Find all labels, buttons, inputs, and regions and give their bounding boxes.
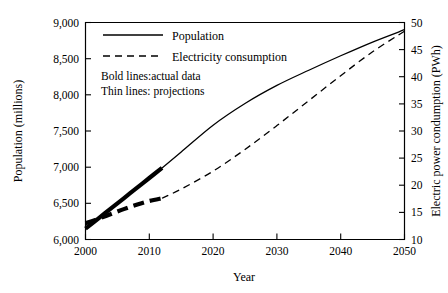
y2-tick-label: 40 <box>411 71 423 83</box>
left-axis-tick-labels: 9,000 8,500 8,000 7,500 7,000 6,500 6,00… <box>53 17 79 247</box>
y2-tick-label: 45 <box>411 44 423 56</box>
legend-label-electricity: Electricity consumption <box>172 50 287 64</box>
x-tick-label: 2050 <box>393 245 416 257</box>
chart-annotations: Bold lines:actual data Thin lines: proje… <box>101 70 205 98</box>
x-tick-label: 2030 <box>265 245 288 257</box>
series-population-actual <box>86 168 163 229</box>
chart-legend: Population Electricity consumption <box>103 29 287 64</box>
chart-figure: 9,000 8,500 8,000 7,500 7,000 6,500 6,00… <box>0 0 448 293</box>
x-axis-title: Year <box>233 270 255 284</box>
y2-tick-label: 35 <box>411 98 423 110</box>
chart-svg: 9,000 8,500 8,000 7,500 7,000 6,500 6,00… <box>0 0 448 293</box>
y-tick-label: 7,000 <box>53 161 79 174</box>
y2-tick-label: 50 <box>411 17 423 29</box>
y2-tick-label: 10 <box>411 234 423 246</box>
y2-tick-label: 15 <box>411 206 423 218</box>
y2-axis-title: Electric power condumption (PWh) <box>429 45 443 217</box>
y2-tick-label: 25 <box>411 152 423 164</box>
x-axis-ticks <box>86 234 405 240</box>
x-tick-label: 2020 <box>202 245 225 257</box>
y-tick-label: 9,000 <box>53 17 79 30</box>
y-axis-title: Population (millions) <box>11 80 25 182</box>
y-tick-label: 7,500 <box>53 125 79 138</box>
y2-tick-label: 30 <box>411 125 423 137</box>
y-tick-label: 8,000 <box>53 89 79 102</box>
y2-tick-label: 20 <box>411 179 423 191</box>
x-tick-label: 2000 <box>74 245 97 257</box>
y-tick-label: 8,500 <box>53 53 79 66</box>
x-tick-label: 2010 <box>138 245 161 257</box>
x-tick-label: 2040 <box>329 245 352 257</box>
x-axis-tick-labels: 2000 2010 2020 2030 2040 2050 <box>74 245 416 257</box>
right-axis-tick-labels: 50 45 40 35 30 25 20 15 10 <box>411 17 423 246</box>
legend-label-population: Population <box>172 29 224 43</box>
annotation-thin-lines: Thin lines: projections <box>101 85 205 98</box>
annotation-bold-lines: Bold lines:actual data <box>101 70 201 82</box>
y-tick-label: 6,500 <box>53 197 79 210</box>
